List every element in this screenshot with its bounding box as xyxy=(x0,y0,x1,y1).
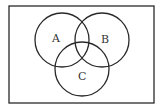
venn-diagram: A B C xyxy=(0,0,163,111)
set-c-circle xyxy=(55,42,109,96)
set-a-circle xyxy=(35,13,89,67)
set-c-label: C xyxy=(78,70,86,83)
set-a-label: A xyxy=(51,32,61,45)
set-b-label: B xyxy=(101,33,109,46)
